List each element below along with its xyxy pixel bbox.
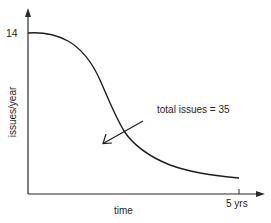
y-tick-label: 14 xyxy=(6,27,18,39)
y-axis-label: issues/year xyxy=(7,77,19,147)
x-tick-label: 5 yrs xyxy=(226,198,248,210)
decay-chart: 14 issues/year time 5 yrs total issues =… xyxy=(0,0,271,223)
annotation-text: total issues = 35 xyxy=(157,104,230,116)
x-axis-arrow-icon xyxy=(256,191,265,197)
annotation-arrow-line xyxy=(104,121,143,143)
x-axis-label: time xyxy=(114,205,133,217)
y-axis-arrow-icon xyxy=(25,8,31,17)
chart-canvas xyxy=(0,0,271,223)
